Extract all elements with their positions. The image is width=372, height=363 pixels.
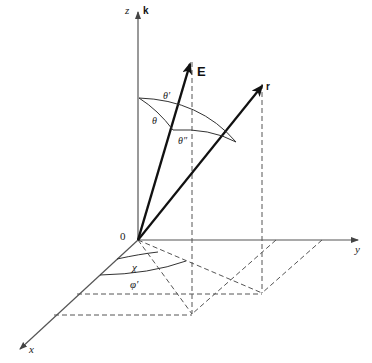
theta-label: θ — [152, 115, 157, 126]
vector-r — [138, 86, 262, 240]
y-axis-label: y — [354, 243, 360, 255]
angle-arcs — [100, 98, 236, 275]
phi-prime-label: φ′ — [130, 278, 139, 290]
chi-label: χ — [131, 261, 138, 273]
vector-r-label: r — [266, 81, 270, 92]
k-unit-label: k — [143, 5, 149, 16]
construction-lines — [54, 62, 322, 315]
x-axis-label: x — [28, 343, 34, 355]
theta-prime-label: θ′ — [163, 90, 171, 101]
z-axis-label: z — [124, 4, 130, 16]
origin-label: 0 — [120, 230, 126, 242]
theta-double-prime-label: θ″ — [178, 135, 188, 146]
vector-E-label: E — [197, 64, 206, 79]
coordinate-diagram: z k E r θ′ θ θ″ 0 χ φ′ y x — [0, 0, 372, 363]
diagram-canvas: z k E r θ′ θ θ″ 0 χ φ′ y x — [0, 0, 372, 363]
